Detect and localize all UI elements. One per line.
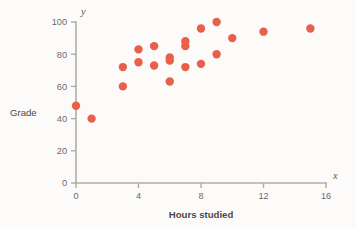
data-point <box>306 24 314 32</box>
data-point <box>181 42 189 50</box>
data-point <box>197 60 205 68</box>
x-axis-tick-labels: 0481216 <box>73 191 331 201</box>
x-tick-label: 12 <box>258 191 268 201</box>
scatter-plot-figure: 020406080100 0481216 y x Grade Hours stu… <box>0 0 356 229</box>
y-axis-group: 020406080100 <box>52 17 76 188</box>
data-point <box>181 63 189 71</box>
data-point <box>119 82 127 90</box>
data-point <box>150 42 158 50</box>
data-point <box>259 27 267 35</box>
data-point <box>134 58 142 66</box>
y-tick-label: 0 <box>62 178 67 188</box>
x-tick-label: 4 <box>136 191 141 201</box>
data-point <box>134 45 142 53</box>
y-tick-label: 80 <box>57 50 67 60</box>
data-point <box>212 18 220 26</box>
y-tick-label: 20 <box>57 146 67 156</box>
x-axis-variable-label: x <box>332 170 338 181</box>
x-tick-label: 8 <box>198 191 203 201</box>
y-axis-title: Grade <box>10 107 37 118</box>
data-point-markers <box>72 18 315 123</box>
data-point <box>119 63 127 71</box>
y-axis-tick-labels: 020406080100 <box>52 17 67 188</box>
data-point <box>150 61 158 69</box>
data-point <box>87 114 95 122</box>
y-tick-label: 40 <box>57 114 67 124</box>
data-point <box>197 24 205 32</box>
chart-canvas: 020406080100 0481216 y x Grade Hours stu… <box>0 0 356 229</box>
data-point <box>72 102 80 110</box>
data-point <box>166 77 174 85</box>
y-tick-label: 60 <box>57 82 67 92</box>
x-tick-label: 16 <box>321 191 331 201</box>
y-axis-variable-label: y <box>80 6 86 17</box>
data-point <box>212 50 220 58</box>
x-axis-group: 0481216 <box>73 183 331 201</box>
y-tick-label: 100 <box>52 17 67 27</box>
data-point <box>228 34 236 42</box>
x-axis-title: Hours studied <box>169 209 234 220</box>
x-tick-label: 0 <box>73 191 78 201</box>
data-point <box>166 56 174 64</box>
